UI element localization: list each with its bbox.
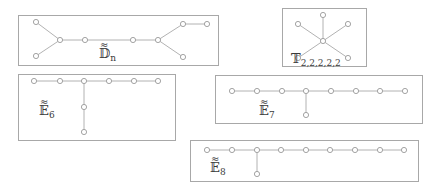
graph-edge — [158, 24, 183, 40]
graph-vertex — [328, 88, 333, 93]
graph-vertex — [377, 88, 382, 93]
graph-vertex — [345, 55, 350, 60]
graph-vertex — [204, 147, 209, 152]
graph-vertex — [303, 88, 308, 93]
graph-vertex — [81, 78, 86, 83]
graph-vertex — [353, 88, 358, 93]
graph-vertex — [377, 147, 382, 152]
graph-vertex — [155, 37, 160, 42]
graph-vertex — [254, 88, 259, 93]
graph-vertex — [320, 12, 325, 17]
diagram-D-n: 𝔻n≈ — [19, 16, 219, 66]
label-subscript: 6 — [49, 110, 55, 120]
graph-vertex — [180, 54, 185, 59]
diagram-E7: 𝔼7≈ — [216, 76, 423, 124]
graph-vertex — [303, 147, 308, 152]
graph-vertex — [229, 88, 234, 93]
graph-vertex — [82, 37, 87, 42]
diagram-label: 𝕋2,2,2,2,2 — [291, 51, 341, 68]
diagram-frame — [216, 76, 423, 124]
graph-edge — [323, 41, 348, 58]
graph-vertex — [57, 37, 62, 42]
diagram-E8: 𝔼8≈ — [191, 141, 419, 182]
graph-vertex — [352, 147, 357, 152]
graph-vertex — [295, 21, 300, 26]
graph-vertex — [345, 21, 350, 26]
diagram-T-22222: 𝕋2,2,2,2,2 — [283, 9, 367, 69]
graph-edge — [36, 22, 60, 40]
graph-vertex — [229, 147, 234, 152]
label-main: 𝕋 — [291, 51, 301, 66]
graph-vertex — [33, 53, 38, 58]
graph-vertex — [131, 78, 136, 83]
graph-edge — [298, 41, 323, 58]
graph-vertex — [31, 78, 36, 83]
label-subscript: 7 — [269, 110, 275, 120]
label-subscript: n — [110, 53, 116, 63]
graph-vertex — [33, 19, 38, 24]
graph-vertex — [402, 88, 407, 93]
graph-vertex — [57, 78, 62, 83]
tilde-accent: ≈ — [40, 96, 48, 107]
graph-vertex — [327, 147, 332, 152]
tilde-accent: ≈ — [100, 39, 108, 50]
graph-vertex — [81, 129, 86, 134]
graph-vertex — [279, 88, 284, 93]
graph-vertex — [81, 104, 86, 109]
graph-edge — [36, 40, 60, 56]
label-subscript: 2,2,2,2,2 — [301, 58, 341, 68]
graph-vertex — [204, 21, 209, 26]
graph-vertex — [106, 78, 111, 83]
diagram-E6: 𝔼6≈ — [19, 75, 176, 141]
graph-vertex — [155, 78, 160, 83]
graph-edge — [323, 24, 348, 41]
label-subscript: 8 — [220, 167, 226, 177]
graph-vertex — [278, 147, 283, 152]
diagram-frame — [19, 16, 219, 66]
tilde-accent: ≈ — [211, 153, 219, 164]
graph-vertex — [180, 21, 185, 26]
dynkin-diagrams-figure: 𝔻n≈ 𝕋2,2,2,2,2 𝔼6≈ 𝔼7≈ 𝔼8≈ — [0, 0, 438, 192]
graph-vertex — [320, 38, 325, 43]
graph-edge — [158, 40, 183, 57]
tilde-accent: ≈ — [260, 96, 268, 107]
graph-vertex — [130, 37, 135, 42]
graph-vertex — [303, 112, 308, 117]
graph-vertex — [401, 147, 406, 152]
graph-vertex — [254, 147, 259, 152]
graph-edge — [298, 24, 323, 41]
graph-vertex — [254, 171, 259, 176]
